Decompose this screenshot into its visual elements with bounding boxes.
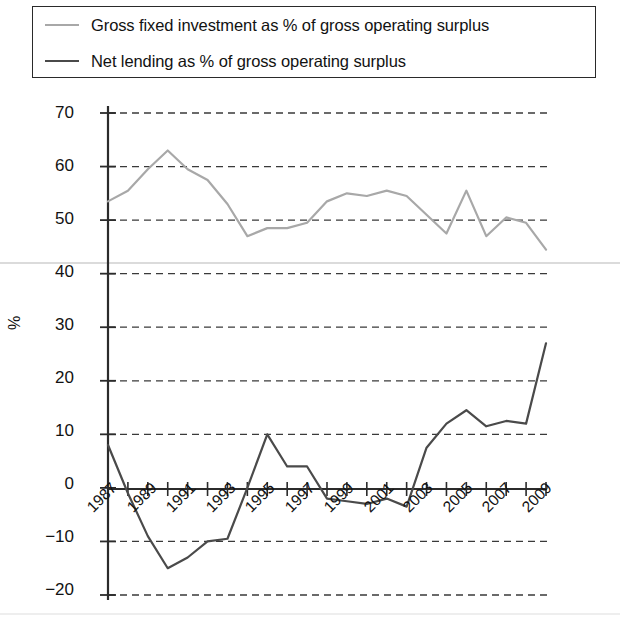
legend-item-net-lending: Net lending as % of gross operating surp… [33,43,595,79]
series-line-gross-fixed-investment [108,150,546,249]
y-tick-0: 0 [16,475,74,492]
series-line-net-lending [108,343,546,568]
y-tick-minus-10: −10 [16,528,74,545]
y-tick-40: 40 [16,263,74,280]
chart-figure: Gross fixed investment as % of gross ope… [0,0,620,631]
y-tick-10: 10 [16,422,74,439]
line-swatch-light-icon [45,24,79,26]
y-tick-70: 70 [16,104,74,121]
y-tick-20: 20 [16,369,74,386]
plot-area [0,0,620,631]
line-swatch-dark-icon [45,60,79,62]
legend-label-gross-fixed-investment: Gross fixed investment as % of gross ope… [91,16,489,35]
y-tick-50: 50 [16,210,74,227]
legend-label-net-lending: Net lending as % of gross operating surp… [91,52,406,71]
legend-item-gross-fixed-investment: Gross fixed investment as % of gross ope… [33,7,595,43]
chart-legend: Gross fixed investment as % of gross ope… [32,6,596,78]
y-tick-minus-20: −20 [16,581,74,598]
y-tick-30: 30 [16,316,74,333]
y-tick-60: 60 [16,157,74,174]
gridlines [108,113,548,595]
